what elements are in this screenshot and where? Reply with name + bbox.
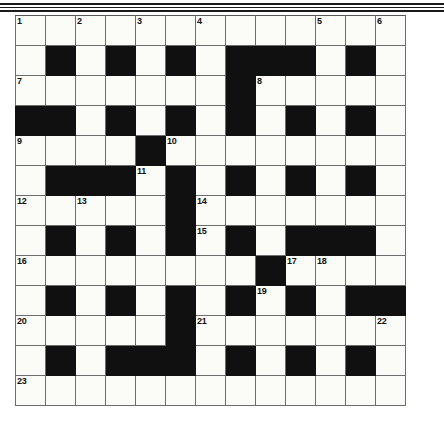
crossword-cell[interactable] — [316, 376, 346, 406]
crossword-cell[interactable] — [46, 256, 76, 286]
crossword-cell[interactable] — [76, 76, 106, 106]
crossword-cell[interactable] — [286, 376, 316, 406]
crossword-cell[interactable] — [376, 76, 406, 106]
crossword-cell[interactable] — [136, 106, 166, 136]
crossword-cell[interactable] — [256, 376, 286, 406]
crossword-cell[interactable] — [136, 196, 166, 226]
crossword-cell[interactable] — [76, 256, 106, 286]
crossword-cell[interactable] — [46, 376, 76, 406]
crossword-cell[interactable] — [286, 136, 316, 166]
crossword-cell[interactable]: 12 — [16, 196, 46, 226]
crossword-cell[interactable] — [196, 376, 226, 406]
crossword-cell[interactable] — [316, 106, 346, 136]
crossword-cell[interactable]: 14 — [196, 196, 226, 226]
crossword-cell[interactable] — [346, 316, 376, 346]
crossword-cell[interactable] — [286, 16, 316, 46]
crossword-cell[interactable] — [106, 136, 136, 166]
crossword-cell[interactable]: 20 — [16, 316, 46, 346]
crossword-cell[interactable] — [376, 46, 406, 76]
crossword-cell[interactable] — [46, 76, 76, 106]
crossword-cell[interactable] — [256, 106, 286, 136]
crossword-cell[interactable] — [16, 226, 46, 256]
crossword-cell[interactable] — [256, 166, 286, 196]
crossword-cell[interactable] — [76, 226, 106, 256]
crossword-cell[interactable]: 17 — [286, 256, 316, 286]
crossword-cell[interactable]: 8 — [256, 76, 286, 106]
crossword-cell[interactable]: 4 — [196, 16, 226, 46]
crossword-cell[interactable] — [196, 106, 226, 136]
crossword-cell[interactable] — [316, 46, 346, 76]
crossword-cell[interactable] — [166, 16, 196, 46]
crossword-cell[interactable] — [286, 76, 316, 106]
crossword-cell[interactable] — [316, 166, 346, 196]
crossword-cell[interactable] — [346, 76, 376, 106]
crossword-cell[interactable] — [286, 316, 316, 346]
crossword-cell[interactable] — [226, 136, 256, 166]
crossword-cell[interactable] — [106, 76, 136, 106]
crossword-cell[interactable]: 2 — [76, 16, 106, 46]
crossword-cell[interactable] — [76, 286, 106, 316]
crossword-cell[interactable] — [346, 256, 376, 286]
crossword-cell[interactable] — [76, 346, 106, 376]
crossword-cell[interactable] — [376, 226, 406, 256]
crossword-cell[interactable] — [76, 316, 106, 346]
crossword-cell[interactable] — [46, 316, 76, 346]
crossword-cell[interactable]: 11 — [136, 166, 166, 196]
crossword-cell[interactable] — [106, 16, 136, 46]
crossword-cell[interactable] — [136, 76, 166, 106]
crossword-cell[interactable] — [76, 106, 106, 136]
crossword-cell[interactable] — [376, 106, 406, 136]
crossword-cell[interactable] — [376, 196, 406, 226]
crossword-cell[interactable] — [256, 136, 286, 166]
crossword-cell[interactable] — [376, 256, 406, 286]
crossword-cell[interactable] — [256, 316, 286, 346]
crossword-cell[interactable] — [76, 376, 106, 406]
crossword-cell[interactable] — [136, 286, 166, 316]
crossword-cell[interactable]: 15 — [196, 226, 226, 256]
crossword-cell[interactable] — [346, 136, 376, 166]
crossword-cell[interactable] — [196, 136, 226, 166]
crossword-cell[interactable] — [316, 136, 346, 166]
crossword-cell[interactable]: 19 — [256, 286, 286, 316]
crossword-cell[interactable] — [286, 196, 316, 226]
crossword-cell[interactable] — [106, 376, 136, 406]
crossword-cell[interactable] — [136, 256, 166, 286]
crossword-cell[interactable] — [256, 196, 286, 226]
crossword-cell[interactable] — [106, 256, 136, 286]
crossword-cell[interactable] — [256, 226, 286, 256]
crossword-cell[interactable] — [376, 136, 406, 166]
crossword-cell[interactable] — [16, 286, 46, 316]
crossword-cell[interactable]: 18 — [316, 256, 346, 286]
crossword-cell[interactable] — [316, 346, 346, 376]
crossword-cell[interactable] — [16, 346, 46, 376]
crossword-cell[interactable] — [196, 256, 226, 286]
crossword-cell[interactable] — [316, 316, 346, 346]
crossword-cell[interactable] — [16, 166, 46, 196]
crossword-cell[interactable] — [226, 16, 256, 46]
crossword-cell[interactable]: 6 — [376, 16, 406, 46]
crossword-cell[interactable] — [256, 346, 286, 376]
crossword-cell[interactable] — [376, 346, 406, 376]
crossword-cell[interactable] — [16, 46, 46, 76]
crossword-cell[interactable] — [196, 46, 226, 76]
crossword-cell[interactable] — [196, 286, 226, 316]
crossword-cell[interactable]: 23 — [16, 376, 46, 406]
crossword-cell[interactable]: 9 — [16, 136, 46, 166]
crossword-cell[interactable] — [256, 16, 286, 46]
crossword-cell[interactable] — [76, 46, 106, 76]
crossword-cell[interactable] — [106, 316, 136, 346]
crossword-cell[interactable] — [226, 256, 256, 286]
crossword-cell[interactable] — [196, 76, 226, 106]
crossword-cell[interactable] — [46, 16, 76, 46]
crossword-cell[interactable] — [46, 196, 76, 226]
crossword-cell[interactable] — [316, 286, 346, 316]
crossword-cell[interactable] — [346, 196, 376, 226]
crossword-cell[interactable]: 10 — [166, 136, 196, 166]
crossword-cell[interactable] — [196, 166, 226, 196]
crossword-cell[interactable]: 1 — [16, 16, 46, 46]
crossword-cell[interactable] — [136, 226, 166, 256]
crossword-cell[interactable] — [376, 376, 406, 406]
crossword-cell[interactable]: 21 — [196, 316, 226, 346]
crossword-cell[interactable] — [346, 376, 376, 406]
crossword-cell[interactable] — [226, 196, 256, 226]
